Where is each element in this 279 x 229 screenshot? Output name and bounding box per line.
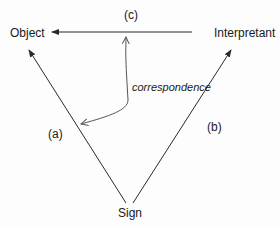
correspondence-curve xyxy=(126,37,128,100)
node-interpretant: Interpretant xyxy=(214,26,275,40)
edge-a-line xyxy=(29,50,126,203)
correspondence-curve-lower xyxy=(81,100,128,124)
edge-label-a: (a) xyxy=(48,127,63,141)
node-object: Object xyxy=(10,26,45,40)
edge-label-b: (b) xyxy=(207,120,222,134)
edge-label-c: (c) xyxy=(124,8,138,22)
correspondence-label: correspondence xyxy=(132,80,211,94)
node-sign: Sign xyxy=(118,206,142,220)
semiotic-triangle-diagram: Object Interpretant Sign (c) (a) (b) cor… xyxy=(0,0,279,229)
